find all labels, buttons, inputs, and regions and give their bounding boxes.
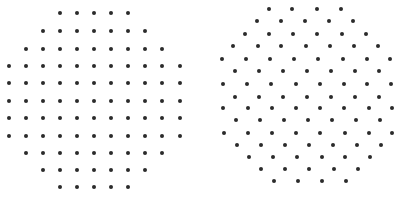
dot [245, 82, 249, 86]
dot [342, 82, 346, 86]
dot [92, 47, 96, 51]
dot [75, 64, 79, 68]
dot [92, 151, 96, 155]
dot [75, 11, 79, 15]
dot [126, 29, 130, 33]
dot [221, 106, 225, 110]
dot [24, 116, 28, 120]
dot [343, 131, 347, 135]
dot [58, 99, 62, 103]
dot [307, 167, 311, 171]
dot [318, 131, 322, 135]
dot [270, 131, 274, 135]
dot [246, 106, 250, 110]
dot [364, 32, 368, 36]
dot [327, 19, 331, 23]
dot [75, 99, 79, 103]
dot [316, 57, 320, 61]
dot [58, 64, 62, 68]
dot [318, 82, 322, 86]
dot [58, 151, 62, 155]
dot [234, 118, 238, 122]
dot [24, 134, 28, 138]
dot [109, 134, 113, 138]
dot [243, 32, 247, 36]
dot [281, 95, 285, 99]
dot [178, 116, 182, 120]
dot [143, 116, 147, 120]
dot [58, 134, 62, 138]
dot [160, 134, 164, 138]
dot [75, 29, 79, 33]
dot [41, 168, 45, 172]
dot [328, 44, 332, 48]
dot [220, 57, 224, 61]
dot [269, 82, 273, 86]
dot [143, 29, 147, 33]
dot [294, 106, 298, 110]
dot [143, 47, 147, 51]
dot [318, 106, 322, 110]
dot [109, 81, 113, 85]
dot [143, 81, 147, 85]
dot [126, 185, 130, 189]
dot [231, 44, 235, 48]
dot [377, 69, 381, 73]
dot [259, 167, 263, 171]
dot [92, 11, 96, 15]
dot [291, 32, 295, 36]
square-lattice-disc [0, 0, 203, 211]
dot [282, 118, 286, 122]
dot [390, 106, 394, 110]
dot [126, 134, 130, 138]
dot [126, 47, 130, 51]
dot [41, 64, 45, 68]
dot [377, 95, 381, 99]
dot [279, 19, 283, 23]
dot [233, 69, 237, 73]
dot [294, 131, 298, 135]
dot [342, 106, 346, 110]
dot [109, 151, 113, 155]
dot [7, 81, 11, 85]
dot [92, 81, 96, 85]
dot [329, 95, 333, 99]
dot [290, 7, 294, 11]
dot [272, 179, 276, 183]
dot [306, 118, 310, 122]
dot [332, 167, 336, 171]
dot [353, 95, 357, 99]
dot [365, 57, 369, 61]
dot [256, 44, 260, 48]
dot [41, 151, 45, 155]
dot [244, 57, 248, 61]
dot [267, 32, 271, 36]
dot [296, 179, 300, 183]
dot [343, 155, 347, 159]
dot [388, 57, 392, 61]
dot [283, 143, 287, 147]
dot [329, 69, 333, 73]
dot [126, 151, 130, 155]
dot [160, 47, 164, 51]
dot [222, 131, 226, 135]
dot [389, 82, 393, 86]
dot [41, 29, 45, 33]
dot [344, 179, 348, 183]
dot [235, 143, 239, 147]
dot [259, 143, 263, 147]
dot [390, 131, 394, 135]
dot [41, 81, 45, 85]
dot [109, 64, 113, 68]
dot [258, 118, 262, 122]
dot [295, 155, 299, 159]
dot [75, 134, 79, 138]
dot [283, 167, 287, 171]
dot [58, 11, 62, 15]
dot [126, 64, 130, 68]
dot [92, 185, 96, 189]
dot [270, 106, 274, 110]
dot [178, 134, 182, 138]
dot [92, 64, 96, 68]
dot [126, 11, 130, 15]
